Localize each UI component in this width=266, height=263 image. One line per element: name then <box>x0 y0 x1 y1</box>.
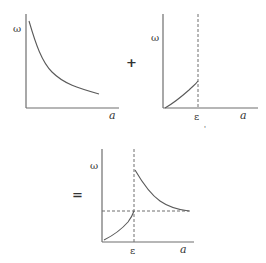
graph-1-x-label: a <box>109 109 116 122</box>
plus-operator: + <box>126 55 137 70</box>
graph-3-decaying-curve <box>135 170 189 211</box>
graph-1-decreasing-curve <box>29 21 99 94</box>
graph-2: ω ε a <box>151 14 258 122</box>
graph-3-rising-curve <box>104 211 134 240</box>
graph-1: ω a <box>13 14 119 122</box>
graph-2-threshold-label: ε <box>194 111 199 122</box>
graph-3-threshold-label: ε <box>130 245 135 256</box>
graph-2-increasing-curve <box>165 81 198 108</box>
equals-operator: = <box>72 187 83 202</box>
diagram-canvas: ω a + ω ε a ' = ω ε a <box>0 0 266 263</box>
graph-1-y-label: ω <box>13 23 21 34</box>
graph-2-x-label: a <box>240 109 247 122</box>
graph-2-y-label: ω <box>151 32 159 43</box>
graph-3: ω ε a <box>90 149 194 256</box>
graph-3-x-label: a <box>180 243 187 256</box>
stray-mark: ' <box>204 125 206 133</box>
graph-3-y-label: ω <box>90 160 98 171</box>
